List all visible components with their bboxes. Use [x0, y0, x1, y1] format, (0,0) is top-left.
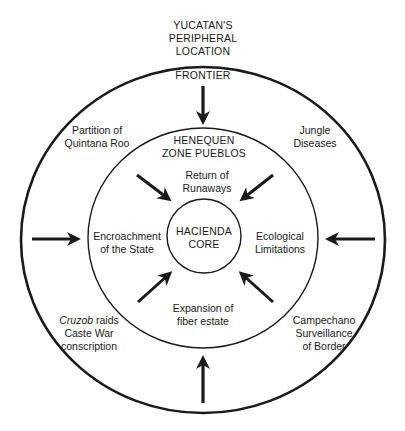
- factor-line: Caste War: [59, 327, 119, 340]
- italic-word: Cruzob: [59, 314, 93, 326]
- factor-line: Return of: [182, 169, 231, 182]
- core-label-line: CORE: [176, 238, 232, 251]
- pueblos-label-line: ZONE PUEBLOS: [162, 147, 246, 160]
- pueblos-label: HENEQUEN ZONE PUEBLOS: [162, 134, 246, 160]
- factor-expansion-fiber-estate: Expansion of fiber estate: [173, 302, 234, 328]
- factor-line: Surveillance: [293, 327, 355, 340]
- factor-line: of the State: [93, 243, 161, 256]
- factor-encroachment-of-state: Encroachment of the State: [93, 230, 161, 256]
- title-line: LOCATION: [169, 45, 238, 58]
- factor-line: Expansion of: [173, 302, 234, 315]
- factor-line: Ecological: [255, 230, 305, 243]
- factor-jungle-diseases: Jungle Diseases: [293, 124, 336, 150]
- arrow-diag-up-right-icon: [138, 276, 167, 302]
- arrow-diag-down-right-icon: [137, 175, 166, 197]
- factor-line: of Border: [293, 340, 355, 353]
- factor-partition-quintana-roo: Partition of Quintana Roo: [65, 124, 130, 150]
- factor-line: Diseases: [293, 137, 336, 150]
- frontier-label: FRONTIER: [175, 69, 230, 82]
- factor-line: Encroachment: [93, 230, 161, 243]
- hacienda-core-label: HACIENDA CORE: [176, 225, 232, 251]
- core-label-line: HACIENDA: [176, 225, 232, 238]
- factor-line: Cruzob raids: [59, 314, 119, 327]
- factor-line: Limitations: [255, 243, 305, 256]
- diagram-title: YUCATAN'S PERIPHERAL LOCATION: [169, 19, 238, 58]
- factor-line: Campechano: [293, 314, 355, 327]
- title-line: YUCATAN'S: [169, 19, 238, 32]
- factor-line: Partition of: [65, 124, 130, 137]
- factor-cruzob-raids: Cruzob raids Caste War conscription: [59, 314, 119, 353]
- arrow-diag-up-left-icon: [244, 276, 273, 302]
- factor-line: Runaways: [182, 182, 231, 195]
- factor-campechano-surveillance: Campechano Surveillance of Border: [293, 314, 355, 353]
- factor-line: conscription: [59, 340, 119, 353]
- title-line: PERIPHERAL: [169, 32, 238, 45]
- factor-ecological-limitations: Ecological Limitations: [255, 230, 305, 256]
- factor-return-of-runaways: Return of Runaways: [182, 169, 231, 195]
- factor-line: Jungle: [293, 124, 336, 137]
- pueblos-label-line: HENEQUEN: [162, 134, 246, 147]
- factor-text: raids: [93, 314, 119, 326]
- factor-line: Quintana Roo: [65, 137, 130, 150]
- concentric-zone-diagram: [0, 0, 405, 431]
- arrow-diag-down-left-icon: [245, 175, 273, 197]
- factor-line: fiber estate: [173, 315, 234, 328]
